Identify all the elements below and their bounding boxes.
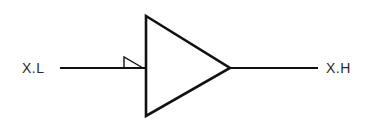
output-label: X.H <box>326 61 351 75</box>
buffer-diagram: X.L X.H <box>0 0 377 122</box>
input-label: X.L <box>22 61 45 75</box>
level-shift-flag-icon <box>124 57 143 68</box>
diagram-canvas <box>0 0 377 122</box>
buffer-triangle-icon <box>146 16 230 116</box>
